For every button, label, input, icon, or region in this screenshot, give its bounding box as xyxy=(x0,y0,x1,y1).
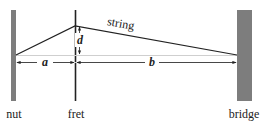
label-b: b xyxy=(149,55,155,69)
label-d: d xyxy=(77,33,84,47)
label-fret: fret xyxy=(68,107,85,121)
label-string: string xyxy=(106,14,135,33)
label-a: a xyxy=(42,55,48,69)
label-bridge: bridge xyxy=(229,107,260,121)
string-fret-diagram: a b d string nut fret bridge xyxy=(0,0,265,123)
label-nut: nut xyxy=(6,107,22,121)
nut-post xyxy=(11,10,16,101)
bridge-post xyxy=(237,10,252,101)
